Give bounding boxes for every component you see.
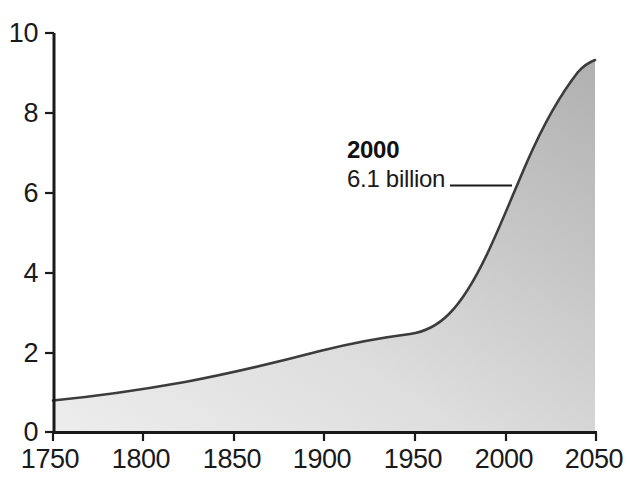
annotation-2000: 2000 6.1 billion: [347, 137, 445, 193]
chart-plot-area: [0, 0, 631, 483]
annotation-year-label: 2000: [347, 137, 445, 164]
x-tick-label-1850: 1850: [203, 446, 261, 473]
x-tick-label-2050: 2050: [565, 446, 623, 473]
y-tick-label-8: 8: [0, 100, 38, 127]
population-growth-chart: 10 8 6 4 2 0 1750 1800 1850 1900 1950 20…: [0, 0, 631, 483]
y-tick-label-4: 4: [0, 260, 38, 287]
y-tick-label-6: 6: [0, 180, 38, 207]
x-tick-label-1800: 1800: [112, 446, 170, 473]
y-tick-label-2: 2: [0, 340, 38, 367]
y-tick-label-10: 10: [0, 20, 38, 47]
population-area-fill: [53, 60, 595, 432]
annotation-value-label: 6.1 billion: [347, 164, 445, 193]
x-tick-label-1900: 1900: [293, 446, 351, 473]
y-tick-label-0: 0: [0, 419, 38, 446]
x-tick-label-2000: 2000: [475, 446, 533, 473]
x-tick-label-1750: 1750: [21, 446, 79, 473]
x-tick-label-1950: 1950: [384, 446, 442, 473]
